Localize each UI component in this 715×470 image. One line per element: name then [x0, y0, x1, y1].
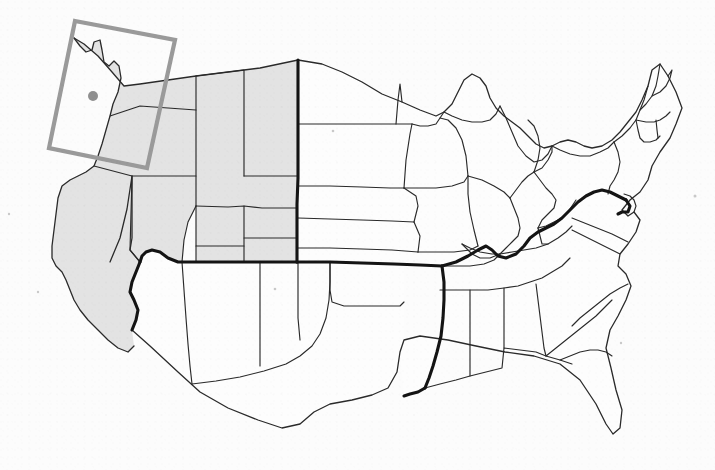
state-utah — [196, 206, 244, 262]
state-colorado-fill2 — [244, 186, 298, 262]
scan-speck — [620, 342, 622, 344]
state-nevada — [130, 176, 196, 262]
state-california — [52, 166, 140, 352]
bold-border-mountain-east — [297, 60, 298, 262]
scan-speck — [37, 291, 39, 293]
state-montana — [244, 60, 298, 176]
location-marker-dot[interactable] — [88, 91, 98, 101]
scan-speck — [332, 130, 335, 133]
us-map-screenshot — [0, 0, 715, 470]
scan-speck — [694, 195, 697, 198]
state-idaho — [196, 70, 244, 206]
us-map-canvas — [0, 0, 715, 470]
scan-speck — [8, 213, 10, 215]
scan-speck — [274, 288, 277, 291]
southwest-states-fill — [130, 250, 404, 428]
